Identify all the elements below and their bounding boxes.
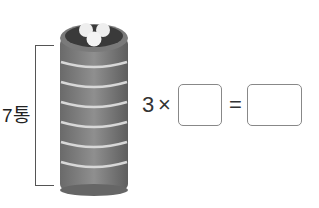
times-sign: ×	[158, 92, 171, 118]
height-bracket	[35, 45, 54, 186]
steamer-stack-icon	[58, 12, 130, 196]
multiplicand: 3	[142, 92, 154, 118]
equals-sign: =	[229, 92, 242, 118]
bracket-label: 7통	[2, 98, 30, 129]
math-problem: 7통 3 × =	[0, 0, 319, 208]
answer-box-1[interactable]	[178, 84, 222, 126]
answer-box-2[interactable]	[247, 84, 302, 126]
